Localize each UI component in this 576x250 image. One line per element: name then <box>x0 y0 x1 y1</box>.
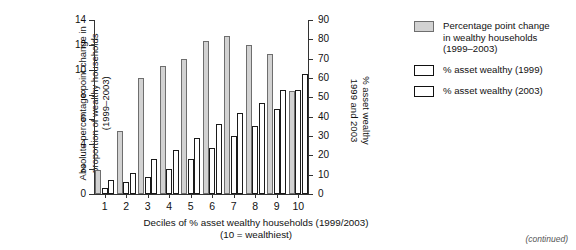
bar-w2003-decile-9 <box>280 90 286 194</box>
bar-change-decile-8 <box>246 45 252 194</box>
bar-w2003-decile-2 <box>130 173 136 194</box>
bar-change-decile-10 <box>289 91 295 194</box>
legend-item: Percentage point change in wealthy house… <box>414 20 574 55</box>
x-axis-title: Deciles of % asset wealthy households (1… <box>106 217 406 241</box>
y-axis-right-tick-label: 40 <box>318 112 340 122</box>
bar-w2003-decile-10 <box>302 74 308 194</box>
y-axis-left-tick <box>89 20 94 21</box>
bar-w1999-decile-8 <box>252 126 258 194</box>
bar-group <box>288 20 310 194</box>
y-axis-right-tick-label: 20 <box>318 150 340 160</box>
x-axis-tick-label: 1 <box>95 200 115 212</box>
bar-change-decile-5 <box>181 59 187 194</box>
y-axis-right-tick-label: 50 <box>318 92 340 102</box>
y-axis-right-tick <box>308 136 313 137</box>
y-axis-left-tick <box>89 169 94 170</box>
x-axis-tick <box>277 194 278 198</box>
y-axis-left-tick-label: 0 <box>64 189 86 199</box>
bar-change-decile-7 <box>224 36 230 194</box>
bar-w1999-decile-9 <box>274 109 280 194</box>
bar-w1999-decile-10 <box>295 90 301 194</box>
y-axis-right-tick <box>308 194 313 195</box>
x-axis-tick-label: 6 <box>202 200 222 212</box>
y-axis-right-tick-label: 80 <box>318 34 340 44</box>
legend-label: Percentage point change in wealthy house… <box>443 20 550 55</box>
bar-change-decile-4 <box>160 66 166 194</box>
y-axis-left-tick <box>89 119 94 120</box>
continued-note: (continued) <box>525 234 568 244</box>
bar-group <box>94 20 116 194</box>
y-axis-right-tick <box>308 59 313 60</box>
y-axis-right-tick <box>308 78 313 79</box>
x-axis-tick-label: 10 <box>288 200 308 212</box>
bar-group <box>266 20 288 194</box>
y-axis-right-tick-label: 60 <box>318 73 340 83</box>
x-axis-tick <box>126 194 127 198</box>
y-axis-left-tick <box>89 144 94 145</box>
y-axis-right-tick <box>308 155 313 156</box>
bar-w2003-decile-3 <box>151 159 157 194</box>
x-axis-tick-label: 5 <box>181 200 201 212</box>
y-axis-left-tick-label: 10 <box>64 65 86 75</box>
x-axis-tick-label: 7 <box>224 200 244 212</box>
x-axis-tick <box>148 194 149 198</box>
y-axis-right-tick <box>308 20 313 21</box>
bar-group <box>159 20 181 194</box>
bar-w2003-decile-8 <box>259 103 265 194</box>
legend-swatch-open <box>414 65 434 76</box>
bar-w1999-decile-5 <box>188 159 194 194</box>
bar-change-decile-2 <box>117 131 123 194</box>
x-axis-tick <box>169 194 170 198</box>
bar-group <box>245 20 267 194</box>
y-axis-left-tick <box>89 194 94 195</box>
y-axis-left-tick <box>89 70 94 71</box>
bar-group <box>180 20 202 194</box>
bar-change-decile-3 <box>138 78 144 194</box>
y-axis-right-tick <box>308 97 313 98</box>
y-axis-right-tick <box>308 117 313 118</box>
x-axis-tick-label: 2 <box>116 200 136 212</box>
bar-series-container <box>94 20 309 194</box>
bar-change-decile-1 <box>95 170 101 194</box>
y-axis-left-tick <box>89 95 94 96</box>
bar-change-decile-9 <box>267 54 273 194</box>
chart-figure: Absolute percentage point change in prop… <box>0 0 576 250</box>
y-axis-right-tick-label: 70 <box>318 54 340 64</box>
bar-group <box>137 20 159 194</box>
x-axis-tick <box>234 194 235 198</box>
x-axis-tick <box>298 194 299 198</box>
bar-w1999-decile-7 <box>231 136 237 194</box>
y-axis-right-tick-label: 30 <box>318 131 340 141</box>
legend-label: % asset wealthy (2003) <box>443 85 543 97</box>
y-axis-right-tick-label: 10 <box>318 170 340 180</box>
x-axis-tick-label: 4 <box>159 200 179 212</box>
bar-w2003-decile-1 <box>108 180 114 194</box>
y-axis-left-tick-label: 14 <box>64 15 86 25</box>
y-axis-left-tick <box>89 45 94 46</box>
legend-item: % asset wealthy (2003) <box>414 85 574 97</box>
bar-group <box>116 20 138 194</box>
legend-swatch-filled <box>414 21 434 32</box>
bar-w1999-decile-3 <box>145 177 151 194</box>
x-axis-tick <box>255 194 256 198</box>
legend-label: % asset wealthy (1999) <box>443 64 543 76</box>
plot-canvas: 0246810121401020304050607080901234567891… <box>94 20 309 205</box>
bar-group <box>202 20 224 194</box>
bar-w2003-decile-5 <box>194 138 200 194</box>
y-axis-left-tick-label: 8 <box>64 90 86 100</box>
chart-legend: Percentage point change in wealthy house… <box>414 20 574 106</box>
x-axis-tick-label: 9 <box>267 200 287 212</box>
y-axis-left-tick-label: 12 <box>64 40 86 50</box>
bar-w2003-decile-7 <box>237 113 243 194</box>
legend-swatch-open <box>414 86 434 97</box>
bar-w1999-decile-6 <box>209 148 215 194</box>
legend-item: % asset wealthy (1999) <box>414 64 574 76</box>
plot-area: 0246810121401020304050607080901234567891… <box>60 12 325 207</box>
bar-w2003-decile-6 <box>216 124 222 194</box>
y-axis-right-title-text: % asset wealthy 1999 and 2003 <box>349 55 372 165</box>
y-axis-right-tick <box>308 39 313 40</box>
y-axis-right-tick-label: 0 <box>318 189 340 199</box>
bar-w1999-decile-4 <box>166 169 172 194</box>
x-axis-tick-label: 3 <box>138 200 158 212</box>
x-axis-tick-label: 8 <box>245 200 265 212</box>
